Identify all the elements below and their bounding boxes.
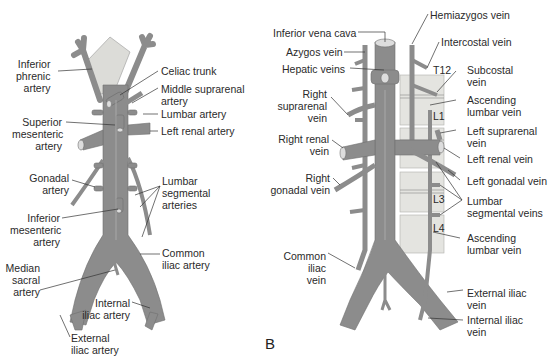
label-line: Right renal [275, 133, 329, 145]
label-line: Right [264, 172, 330, 184]
label-intercostal-vein: Intercostal vein [441, 36, 512, 48]
label-common-iliac-vein: Common iliac vein [280, 250, 326, 286]
label-line: External [71, 332, 119, 344]
panel-letter-b: B [265, 335, 275, 352]
label-line: Gonadal [24, 172, 69, 184]
label-inferior-vena-cava: Inferior vena cava [273, 27, 356, 39]
label-common-iliac-artery: Common iliac artery [162, 247, 210, 271]
label-line: vein [467, 137, 537, 149]
label-left-renal-vein: Left renal vein [467, 153, 533, 165]
label-line: Lumbar [467, 195, 543, 207]
label-ascending-lumbar-vein-lower: Ascending lumbar vein [467, 232, 521, 256]
label-middle-suprarenal-artery: Middle suprarenal artery [161, 83, 244, 107]
label-left-gonadal-vein: Left gonadal vein [467, 175, 547, 187]
label-superior-mesenteric-artery: Superior mesenteric artery [12, 116, 62, 152]
label-right-suprarenal-vein: Right suprarenal vein [275, 88, 327, 124]
label-line: External iliac [467, 287, 527, 299]
label-line: artery [10, 236, 60, 248]
label-lumbar-segmental-veins: Lumbar segmental veins [467, 195, 543, 219]
label-line: segmental veins [467, 207, 543, 219]
label-l4: L4 [433, 222, 445, 234]
label-line: artery [161, 95, 244, 107]
label-t12: T12 [433, 64, 451, 76]
label-line: Inferior [16, 58, 50, 70]
label-line: vein [467, 299, 527, 311]
label-right-gonadal-vein: Right gonadal vein [264, 172, 330, 196]
label-line: artery [24, 184, 69, 196]
label-median-sacral-artery: Median sacral artery [2, 262, 40, 298]
label-line: gonadal vein [264, 184, 330, 196]
label-ascending-lumbar-vein-upper: Ascending lumbar vein [467, 94, 521, 118]
label-l3: L3 [433, 193, 445, 205]
aorta-panel [70, 36, 165, 330]
label-line: iliac [280, 262, 326, 274]
label-azygos-vein: Azygos vein [286, 46, 343, 58]
label-line: vein [280, 274, 326, 286]
label-right-renal-vein: Right renal vein [275, 133, 329, 157]
label-line: Common [280, 250, 326, 262]
label-line: Left suprarenal [467, 125, 537, 137]
label-left-renal-artery: Left renal artery [161, 125, 235, 137]
label-line: vein [275, 112, 327, 124]
label-line: iliac artery [78, 309, 130, 321]
label-external-iliac-vein: External iliac vein [467, 287, 527, 311]
label-line: Subcostal [467, 64, 513, 76]
label-internal-iliac-vein: Internal iliac vein [467, 314, 523, 338]
label-gonadal-artery: Gonadal artery [24, 172, 69, 196]
label-line: lumbar vein [467, 106, 521, 118]
label-line: segmental [162, 187, 210, 199]
label-line: Internal [78, 297, 130, 309]
label-line: lumbar vein [467, 244, 521, 256]
label-line: mesenteric [10, 224, 60, 236]
label-line: artery [12, 140, 62, 152]
label-celiac-trunk: Celiac trunk [161, 65, 216, 77]
label-inferior-phrenic-artery: Inferior phrenic artery [16, 58, 50, 94]
label-line: iliac artery [71, 344, 119, 356]
label-line: arteries [162, 199, 210, 211]
label-inferior-mesenteric-artery: Inferior mesenteric artery [10, 212, 60, 248]
label-internal-iliac-artery: Internal iliac artery [78, 297, 130, 321]
label-line: vein [467, 76, 513, 88]
label-line: mesenteric [12, 128, 62, 140]
label-line: vein [275, 145, 329, 157]
label-line: Right [275, 88, 327, 100]
label-external-iliac-artery: External iliac artery [71, 332, 119, 356]
label-line: Common [162, 247, 210, 259]
label-line: artery [16, 82, 50, 94]
label-line: Lumbar [162, 175, 210, 187]
label-line: iliac artery [162, 259, 210, 271]
label-line: Ascending [467, 232, 521, 244]
label-line: vein [467, 326, 523, 338]
label-left-suprarenal-vein: Left suprarenal vein [467, 125, 537, 149]
label-line: Internal iliac [467, 314, 523, 326]
label-line: Middle suprarenal [161, 83, 244, 95]
label-lumbar-segmental-arteries: Lumbar segmental arteries [162, 175, 210, 211]
label-line: Median [2, 262, 40, 274]
label-hepatic-veins: Hepatic veins [282, 63, 345, 75]
label-subcostal-vein: Subcostal vein [467, 64, 513, 88]
label-l1: L1 [433, 110, 445, 122]
label-line: artery [2, 286, 40, 298]
label-line: sacral [2, 274, 40, 286]
label-line: Ascending [467, 94, 521, 106]
label-line: suprarenal [275, 100, 327, 112]
label-line: phrenic [16, 70, 50, 82]
label-hemiazygos-vein: Hemiazygos vein [430, 9, 510, 21]
label-line: Inferior [10, 212, 60, 224]
label-lumbar-artery: Lumbar artery [161, 108, 226, 120]
label-line: Superior [12, 116, 62, 128]
